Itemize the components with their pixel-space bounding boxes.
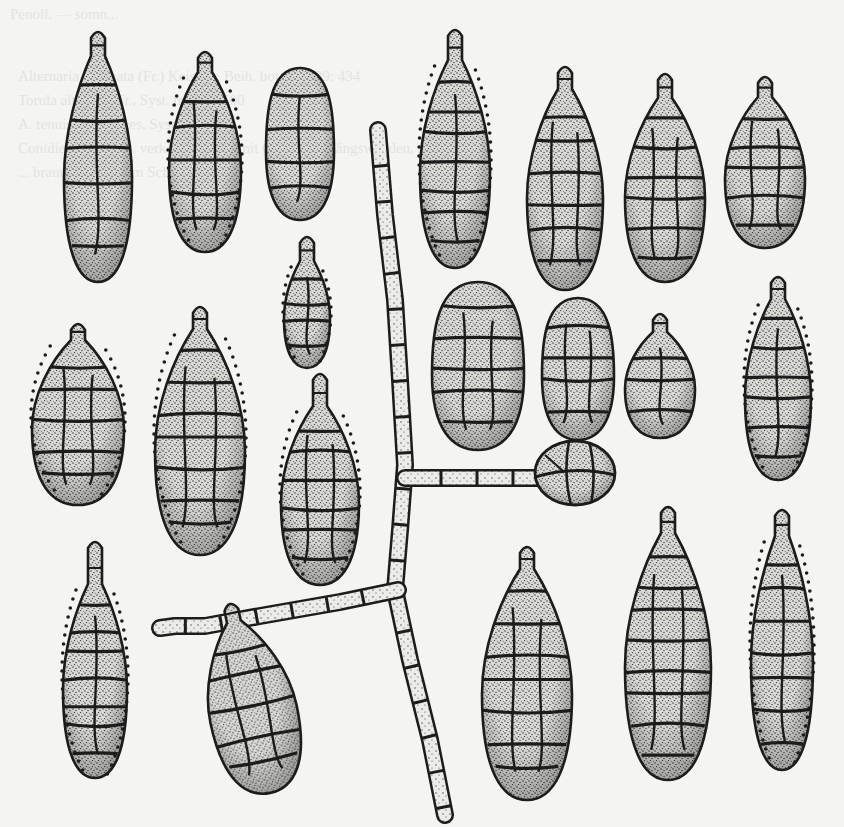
wall-wart — [430, 235, 434, 239]
wall-wart — [178, 220, 182, 224]
wall-wart — [489, 140, 493, 144]
wall-wart — [233, 508, 237, 512]
wall-wart — [61, 651, 65, 655]
wall-wart — [60, 669, 64, 673]
wall-wart — [480, 86, 484, 90]
transverse-septum — [60, 147, 136, 149]
wall-wart — [792, 469, 796, 473]
wall-wart — [110, 763, 114, 767]
wall-wart — [322, 350, 326, 354]
wall-wart — [123, 637, 127, 641]
wall-wart — [281, 301, 285, 305]
wall-wart — [175, 211, 179, 215]
transverse-septum — [156, 382, 244, 383]
wall-wart — [71, 597, 75, 601]
wall-wart — [281, 310, 285, 314]
wall-wart — [228, 224, 232, 228]
wall-wart — [812, 625, 816, 629]
wall-wart — [155, 396, 159, 400]
wall-wart — [321, 269, 325, 273]
wall-wart — [477, 77, 481, 81]
wall-wart — [169, 121, 173, 125]
wall-wart — [804, 334, 808, 338]
wall-wart — [750, 603, 754, 607]
wall-wart — [746, 420, 750, 424]
wall-wart — [279, 500, 283, 504]
wall-wart — [174, 531, 178, 535]
wall-wart — [166, 148, 170, 152]
wall-wart — [809, 697, 813, 701]
wall-wart — [106, 483, 110, 487]
conidium — [60, 32, 136, 282]
wall-wart — [238, 490, 242, 494]
wall-wart — [31, 389, 35, 393]
wall-wart — [166, 157, 170, 161]
wall-wart — [114, 465, 118, 469]
wall-wart — [126, 691, 130, 695]
wall-wart — [358, 504, 362, 508]
wall-wart — [756, 567, 760, 571]
wall-wart — [418, 136, 422, 140]
wall-wart — [421, 199, 425, 203]
wall-wart — [756, 456, 760, 460]
transverse-septum — [527, 140, 604, 142]
wall-wart — [162, 360, 166, 364]
wall-wart — [122, 402, 126, 406]
wall-wart — [243, 454, 247, 458]
wall-wart — [486, 113, 490, 117]
wall-wart — [746, 339, 750, 343]
wall-wart — [351, 540, 355, 544]
transverse-septum — [431, 241, 480, 243]
wall-wart — [238, 125, 242, 129]
wall-wart — [423, 208, 427, 212]
wall-wart — [244, 436, 248, 440]
wall-wart — [159, 486, 163, 490]
wall-wart — [484, 104, 488, 108]
wall-wart — [60, 660, 64, 664]
wall-wart — [419, 118, 423, 122]
transverse-septum — [621, 177, 709, 178]
transverse-septum — [31, 389, 126, 390]
wall-wart — [63, 705, 67, 709]
wall-wart — [126, 682, 130, 686]
wall-wart — [31, 434, 35, 438]
hypha-septum — [393, 524, 407, 525]
wall-wart — [353, 531, 357, 535]
wall-wart — [244, 427, 248, 431]
wall-wart — [285, 437, 289, 441]
wall-wart — [809, 406, 813, 410]
wall-wart — [187, 238, 191, 242]
wall-wart — [335, 576, 339, 580]
wall-wart — [810, 397, 814, 401]
wall-wart — [240, 161, 244, 165]
wall-wart — [488, 131, 492, 135]
wall-wart — [301, 572, 305, 576]
wall-wart — [483, 212, 487, 216]
transverse-septum — [638, 257, 693, 259]
wall-wart — [743, 366, 747, 370]
wall-wart — [165, 351, 169, 355]
wall-wart — [340, 567, 344, 571]
hypha-septum — [395, 416, 409, 417]
transverse-septum — [68, 604, 122, 606]
wall-wart — [318, 359, 322, 363]
wall-wart — [357, 513, 361, 517]
wall-wart — [811, 670, 815, 674]
wall-wart — [164, 504, 168, 508]
conidium — [428, 282, 527, 450]
wall-wart — [808, 589, 812, 593]
wall-wart — [282, 292, 286, 296]
transverse-septum — [624, 358, 696, 360]
wall-wart — [748, 639, 752, 643]
wall-wart — [329, 305, 333, 309]
wall-wart — [285, 337, 289, 341]
wall-wart — [33, 380, 37, 384]
wall-wart — [220, 242, 224, 246]
wall-wart — [122, 718, 126, 722]
wall-wart — [810, 607, 814, 611]
hypha-septum — [374, 165, 388, 166]
wall-wart — [224, 233, 228, 237]
wall-wart — [755, 711, 759, 715]
wall-wart — [758, 558, 762, 562]
wall-wart — [152, 432, 156, 436]
